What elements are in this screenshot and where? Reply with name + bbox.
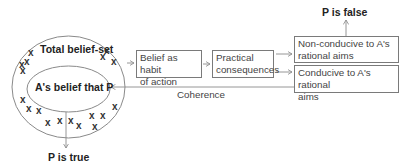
non-conducive-box: Non-conducive to A's rational aims — [294, 36, 399, 63]
habit-of-action-box: Belief as habit of action — [136, 50, 202, 78]
p-is-true-label: P is true — [48, 152, 89, 163]
conducive-box: Conducive to A's rational aims — [294, 65, 399, 93]
belief-marker: x — [36, 106, 42, 116]
belief-marker: x — [26, 104, 32, 114]
belief-marker: x — [92, 122, 98, 132]
consequences-box-line1: Practical — [216, 52, 270, 64]
belief-marker: x — [100, 52, 106, 62]
p-is-false-label: P is false — [322, 7, 367, 18]
habit-box-line1: Belief as habit — [140, 52, 198, 76]
belief-marker: x — [20, 66, 26, 76]
conducive-box-line1: Conducive to A's rational — [298, 67, 395, 91]
belief-marker: x — [45, 118, 51, 128]
belief-marker: x — [76, 121, 82, 131]
belief-marker: x — [112, 102, 118, 112]
belief-marker: x — [68, 116, 74, 126]
coherence-label: Coherence — [177, 90, 225, 100]
habit-box-line2: of action — [140, 76, 198, 88]
practical-consequences-box: Practical consequences — [212, 50, 274, 78]
belief-marker: x — [20, 95, 26, 105]
belief-marker: x — [57, 116, 63, 126]
belief-marker: x — [89, 111, 95, 121]
conducive-box-line2: aims — [298, 91, 395, 103]
belief-that-p-label: A's belief that P — [35, 82, 113, 93]
belief-marker: x — [111, 57, 117, 67]
consequences-box-line2: consequences — [216, 64, 270, 76]
non-conducive-box-line1: Non-conducive to A's — [298, 38, 395, 50]
belief-marker: x — [100, 111, 106, 121]
non-conducive-box-line2: rational aims — [298, 50, 395, 62]
